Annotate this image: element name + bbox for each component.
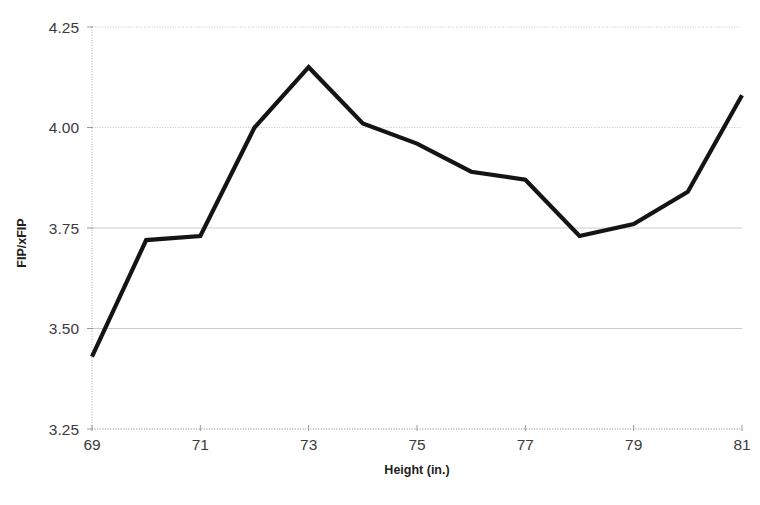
chart-figure: 3.253.503.754.004.25 69717375777981 FIP/… — [0, 0, 760, 505]
gridlines — [92, 27, 742, 429]
y-tick-label-3.25: 3.25 — [49, 421, 79, 438]
x-axis-tickmarks — [92, 425, 742, 431]
x-axis-title: Height (in.) — [384, 463, 449, 477]
x-tick-label-71: 71 — [192, 436, 209, 453]
y-axis-tick-labels: 3.253.503.754.004.25 — [49, 19, 80, 438]
x-tick-label-79: 79 — [625, 436, 642, 453]
y-tick-label-3.75: 3.75 — [49, 220, 79, 237]
line-chart: 3.253.503.754.004.25 69717375777981 FIP/… — [0, 0, 760, 505]
y-tick-label-4.25: 4.25 — [49, 19, 79, 36]
x-tick-label-75: 75 — [408, 436, 425, 453]
y-axis-title: FIP/xFIP — [15, 218, 29, 267]
x-tick-label-69: 69 — [83, 436, 100, 453]
data-series-group — [92, 67, 742, 356]
x-tick-label-73: 73 — [300, 436, 317, 453]
x-axis-tick-labels: 69717375777981 — [83, 436, 750, 453]
x-tick-label-81: 81 — [733, 436, 750, 453]
x-tick-label-77: 77 — [517, 436, 534, 453]
y-tick-label-3.50: 3.50 — [49, 320, 80, 337]
y-tick-label-4.00: 4.00 — [49, 119, 80, 136]
series-line-FIP/xFIP — [92, 67, 742, 356]
